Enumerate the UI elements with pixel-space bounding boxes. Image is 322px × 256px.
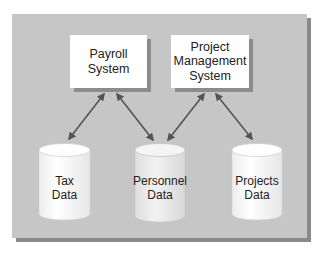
arrow-project-personnel	[168, 94, 204, 140]
projects-label-line1: Projects	[232, 174, 282, 188]
arrow-payroll-tax	[69, 94, 104, 139]
personnel-label-line1: Personnel	[130, 174, 190, 188]
tax-data-label: Tax Data	[39, 170, 90, 210]
arrow-project-projects	[216, 94, 252, 139]
projects-label-line2: Data	[232, 188, 282, 202]
personnel-label-line2: Data	[130, 188, 190, 202]
tax-label-line1: Tax	[39, 174, 90, 188]
arrow-payroll-personnel	[117, 94, 153, 140]
projects-data-label: Projects Data	[232, 170, 282, 210]
diagram-graphics	[0, 0, 322, 256]
personnel-data-label: Personnel Data	[130, 170, 190, 210]
tax-label-line2: Data	[39, 188, 90, 202]
